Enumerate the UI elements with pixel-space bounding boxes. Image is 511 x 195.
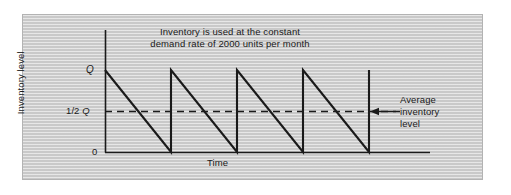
y-axis-label: Inventory level (15, 43, 27, 123)
chart-title: Inventory is used at the constant demand… (105, 26, 355, 50)
annotation-line-1: Average (400, 94, 439, 106)
annotation-line-3: level (400, 118, 439, 130)
average-inventory-annotation: Average inventory level (400, 94, 439, 130)
chart-title-line-2: demand rate of 2000 units per month (105, 38, 355, 50)
y-tick-label-half-q-prefix: 1/2 (66, 105, 82, 116)
inventory-sawtooth-figure: Inventory is used at the constant demand… (0, 0, 511, 195)
annotation-arrow-icon (370, 108, 379, 115)
y-tick-label-zero: 0 (92, 146, 97, 158)
x-axis-label: Time (207, 157, 228, 169)
annotation-line-2: inventory (400, 106, 439, 118)
y-tick-label-half-q: 1/2 Q (66, 105, 90, 117)
y-tick-label-half-q-symbol: Q (82, 105, 90, 116)
y-tick-label-q: Q (86, 64, 94, 76)
chart-title-line-1: Inventory is used at the constant (105, 26, 355, 38)
